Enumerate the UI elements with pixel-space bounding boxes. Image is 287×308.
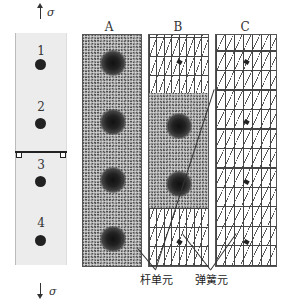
stress-label-top: σ xyxy=(47,6,55,19)
hole-marker-c2 xyxy=(243,119,249,125)
mesh-panel-c xyxy=(215,34,277,267)
panel-title-a: A xyxy=(99,20,119,34)
stress-arrowhead-top xyxy=(37,3,43,8)
label-spring-element: 弹簧元 xyxy=(195,271,228,287)
label-bar-element: 杆单元 xyxy=(140,271,173,287)
panel-title-c: C xyxy=(235,20,255,34)
specimen-strip: 1 2 3 4 xyxy=(15,33,67,265)
hole-3 xyxy=(35,176,46,187)
fine-mesh-zone-b xyxy=(149,93,209,208)
hole-label-3: 3 xyxy=(36,158,46,172)
hole-marker-b4 xyxy=(176,239,182,245)
hole-region-a1 xyxy=(100,50,126,76)
mesh-panel-a xyxy=(82,34,142,267)
hole-2 xyxy=(35,118,46,129)
panel-title-b: B xyxy=(168,20,188,34)
hole-region-a3 xyxy=(100,167,126,193)
crack-end-right xyxy=(60,152,66,158)
hole-marker-c3 xyxy=(243,179,249,185)
hole-marker-c1 xyxy=(243,59,249,65)
stress-arrowhead-bottom xyxy=(37,294,43,299)
hole-marker-b1 xyxy=(176,59,182,65)
hole-marker-c4 xyxy=(243,239,249,245)
hole-4 xyxy=(35,235,46,246)
hole-label-4: 4 xyxy=(36,216,46,230)
hole-label-2: 2 xyxy=(36,100,46,114)
hole-region-a4 xyxy=(100,226,126,252)
hole-1 xyxy=(35,59,46,70)
stress-label-bottom: σ xyxy=(49,285,57,298)
hole-region-a2 xyxy=(100,109,126,135)
hole-label-1: 1 xyxy=(36,44,46,58)
mesh-panel-b xyxy=(148,34,209,267)
hole-region-b2 xyxy=(166,113,192,139)
crack-end-left xyxy=(16,152,22,158)
